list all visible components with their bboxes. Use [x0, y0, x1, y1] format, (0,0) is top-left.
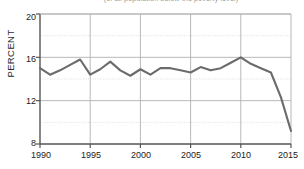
plot-area	[0, 0, 304, 169]
data-line-series-percent	[40, 57, 291, 131]
chart-figure: (of all population below the poverty lev…	[0, 0, 304, 169]
axis-ticks	[36, 14, 291, 148]
minor-gridlines	[40, 36, 291, 123]
